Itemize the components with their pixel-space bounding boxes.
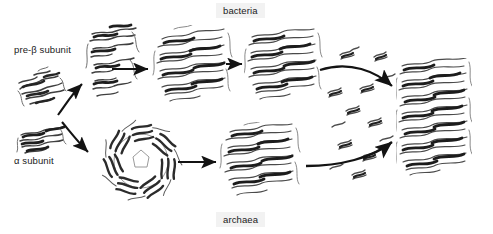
structure-archaea-half-proteasome	[218, 122, 304, 202]
proteasome-assembly-figure: pre-β subunit α subunit bacteria archaea	[0, 0, 493, 234]
label-archaea: archaea	[216, 212, 265, 227]
label-bacteria: bacteria	[216, 3, 265, 18]
propeptide-fragments	[322, 45, 402, 185]
structure-pre-beta-monomer	[14, 63, 72, 111]
label-pre-beta-subunit: pre-β subunit	[14, 44, 71, 55]
structure-alpha-ring	[96, 119, 186, 203]
structure-pre-beta-dimer	[84, 22, 144, 102]
structure-bacteria-half-proteasome	[152, 25, 236, 105]
structure-bacteria-preholoproteasome	[244, 27, 324, 101]
structure-mature-proteasome	[396, 58, 472, 176]
structure-alpha-monomer	[16, 123, 72, 157]
